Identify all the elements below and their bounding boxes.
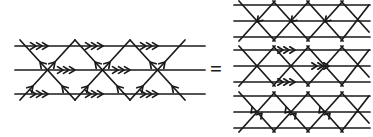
lhs-lattice-diagram	[15, 36, 205, 104]
rhs-panel-top	[231, 0, 373, 44]
rhs3-diag-dl-4	[341, 96, 369, 132]
equals-sign: =	[205, 57, 227, 81]
rhs-panel-middle	[231, 44, 373, 89]
rhs-lattice-stack	[231, 0, 373, 137]
figure-canvas: =	[0, 0, 373, 137]
rhs2-diag-dl-4	[341, 50, 369, 86]
rhs1-diag-dl-4	[341, 5, 369, 41]
rhs-panel-bottom	[231, 90, 373, 135]
